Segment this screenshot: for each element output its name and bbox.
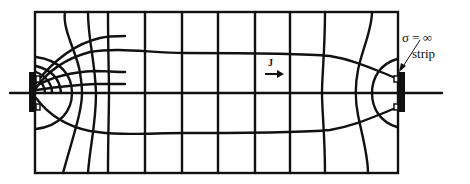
- current-density-label: J: [268, 57, 273, 68]
- sigma-infinity-label: σ = ∞: [402, 30, 432, 46]
- pointer-arrowhead-icon: [399, 63, 406, 72]
- field-mapping-diagram: [0, 0, 470, 184]
- current-flow-lines: [36, 36, 396, 134]
- strip-label: strip: [412, 46, 435, 62]
- left-electrode: [29, 72, 36, 112]
- current-direction-arrow-icon: [265, 70, 284, 78]
- right-electrode: [398, 72, 405, 112]
